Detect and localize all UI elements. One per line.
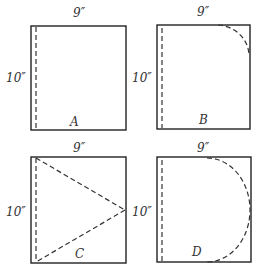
panel-b-label: B <box>198 113 208 127</box>
panel-d: 9″ 10″ D <box>132 141 251 262</box>
panel-a: 9″ 10″ A <box>6 6 126 130</box>
panel-b-corner-arc <box>218 25 249 55</box>
panel-c-upper-diagonal <box>36 158 125 210</box>
panel-d-label: D <box>191 245 202 259</box>
panel-a-height-label: 10″ <box>6 71 26 85</box>
panel-c-width-label: 9″ <box>73 141 86 155</box>
panel-a-label: A <box>69 115 79 129</box>
panel-d-semicircle <box>207 158 250 262</box>
panel-d-height-label: 10″ <box>132 205 152 219</box>
panel-a-width-label: 9″ <box>73 6 86 20</box>
panel-c-height-label: 10″ <box>6 205 26 219</box>
pattern-diagram: 9″ 10″ A 9″ 10″ B 9″ 10″ C 9″ 10″ D <box>0 0 265 271</box>
panel-c: 9″ 10″ C <box>6 141 126 263</box>
panel-b: 9″ 10″ B <box>132 5 250 129</box>
panel-d-width-label: 9″ <box>197 141 210 155</box>
panel-b-width-label: 9″ <box>197 5 210 19</box>
panel-c-label: C <box>75 247 84 261</box>
panel-b-height-label: 10″ <box>132 71 152 85</box>
